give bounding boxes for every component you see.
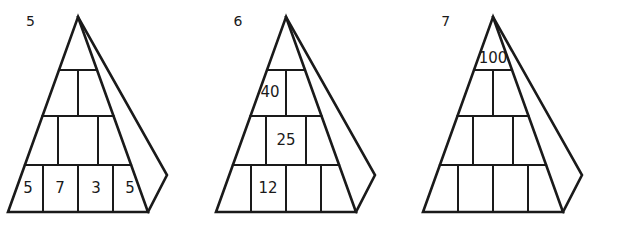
cell-value-r4-c4: 5: [125, 179, 135, 197]
pyramid-5: 55735: [0, 0, 208, 229]
cell-value-r2-c1: 40: [260, 84, 279, 102]
cell-value-r4-c2: 7: [55, 179, 65, 197]
cell-value-r4-c1: 5: [23, 179, 33, 197]
pyramid-drawing: 100: [415, 0, 623, 229]
cell-value-r4-c2: 12: [258, 179, 277, 197]
pyramid-drawing: 5735: [0, 0, 208, 229]
cell-value-r3-c2: 25: [276, 131, 295, 149]
cell-value-r4-c3: 3: [91, 179, 101, 197]
puzzle-board: 5573564025127100: [0, 0, 623, 229]
pyramid-6: 6402512: [208, 0, 416, 229]
pyramid-7: 7100: [415, 0, 623, 229]
pyramid-drawing: 402512: [208, 0, 416, 229]
cell-value-r1-c1: 100: [479, 50, 508, 68]
